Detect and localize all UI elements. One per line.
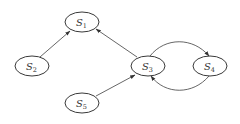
node-s1: S1: [65, 12, 99, 32]
node-s3: S3: [131, 56, 165, 76]
edge-s4-to-s3: [151, 76, 209, 90]
node-s2: S2: [15, 56, 49, 76]
edge-s3-to-s4: [150, 42, 209, 56]
state-graph: S1 S2 S3 S4 S5: [0, 0, 240, 124]
edge-s3-to-s1: [96, 29, 137, 57]
edge-s5-to-s3: [96, 75, 135, 96]
edge-s2-to-s1: [40, 31, 70, 57]
node-s5: S5: [65, 93, 99, 113]
node-s4: S4: [193, 56, 227, 76]
